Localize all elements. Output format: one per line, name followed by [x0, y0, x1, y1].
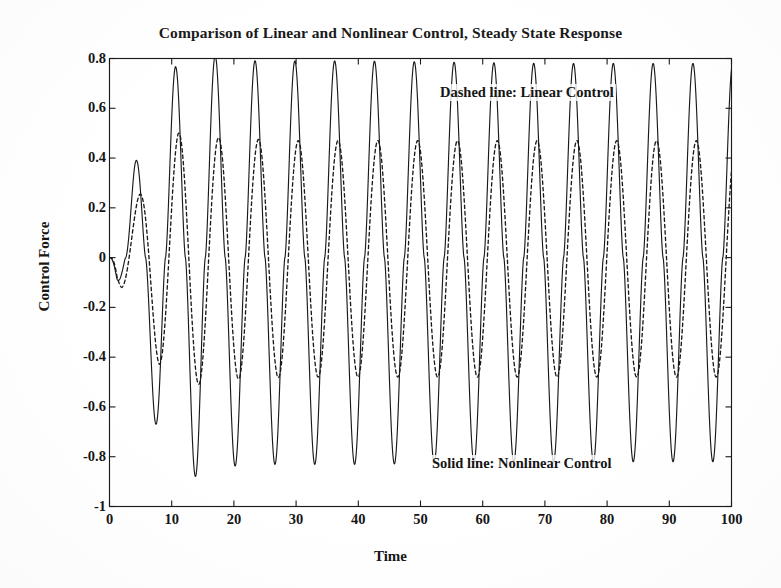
plot-canvas	[0, 0, 781, 588]
y-tick-label: 0.2	[60, 200, 106, 215]
x-tick-label: 80	[577, 512, 637, 527]
x-tick-label: 0	[80, 512, 140, 527]
y-tick-label: 0.8	[60, 51, 106, 66]
x-axis-tick-labels: 0102030405060708090100	[0, 512, 781, 540]
y-tick-label: 0.6	[60, 100, 106, 115]
x-tick-label: 50	[391, 512, 451, 527]
x-tick-label: 60	[453, 512, 513, 527]
y-tick-label: -0.4	[60, 349, 106, 364]
x-tick-label: 40	[328, 512, 388, 527]
annotation-dashed-line-legend: Dashed line: Linear Control	[438, 84, 616, 101]
y-tick-label: 0	[60, 250, 106, 265]
x-tick-label: 90	[639, 512, 699, 527]
series-nonlinear-control	[110, 59, 732, 477]
x-axis-title: Time	[0, 548, 781, 565]
y-tick-label: 0.4	[60, 150, 106, 165]
y-tick-label: -0.2	[60, 299, 106, 314]
figure-container: Comparison of Linear and Nonlinear Contr…	[0, 0, 781, 588]
y-tick-label: -1	[60, 499, 106, 514]
x-tick-label: 70	[515, 512, 575, 527]
x-tick-label: 30	[266, 512, 326, 527]
x-tick-label: 20	[204, 512, 264, 527]
axis-ticks	[110, 59, 732, 507]
annotation-solid-line-legend: Solid line: Nonlinear Control	[430, 455, 614, 472]
y-tick-label: -0.6	[60, 399, 106, 414]
data-curves	[110, 59, 732, 477]
y-axis-title: Control Force	[36, 187, 53, 347]
x-tick-label: 100	[702, 512, 762, 527]
x-tick-label: 10	[142, 512, 202, 527]
y-tick-label: -0.8	[60, 449, 106, 464]
y-axis-tick-labels: -1-0.8-0.6-0.4-0.200.20.40.60.8	[56, 0, 106, 588]
plot-frame	[110, 59, 732, 507]
